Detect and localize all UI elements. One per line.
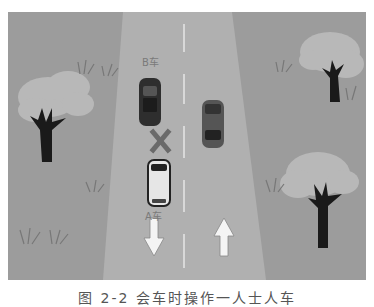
car-b-label: B车 [142,54,159,69]
car-a-label: A车 [145,208,162,223]
oncoming-car [202,100,224,148]
car-a [148,160,170,206]
bush-bottom-right [280,152,359,198]
figure-caption: 图 2-2 会车时操作一人士人车 [0,287,374,307]
car-b [139,78,161,126]
bush-top-left [18,71,94,122]
road-scene-graphic [8,12,366,280]
illustration-scene: B车 A车 [8,12,366,280]
